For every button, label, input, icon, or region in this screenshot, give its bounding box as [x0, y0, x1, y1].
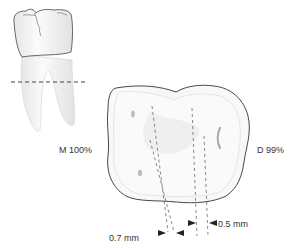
- arrow-right-07: [176, 230, 184, 236]
- tooth-cross-section: [107, 85, 249, 236]
- arrow-left-05: [188, 220, 196, 226]
- diagram-canvas: [0, 0, 296, 249]
- molar-side-view: [11, 9, 86, 131]
- pulp-horn-mb: [131, 110, 135, 117]
- mesial-root: [21, 55, 74, 131]
- measure-label-right: 0.5 mm: [218, 219, 248, 229]
- mesial-label: M 100%: [59, 145, 92, 155]
- measure-label-left: 0.7 mm: [109, 233, 139, 243]
- distal-label: D 99%: [257, 145, 284, 155]
- pulp-horn-ml: [138, 170, 142, 176]
- arrow-right-05: [209, 220, 217, 226]
- crown: [14, 9, 73, 57]
